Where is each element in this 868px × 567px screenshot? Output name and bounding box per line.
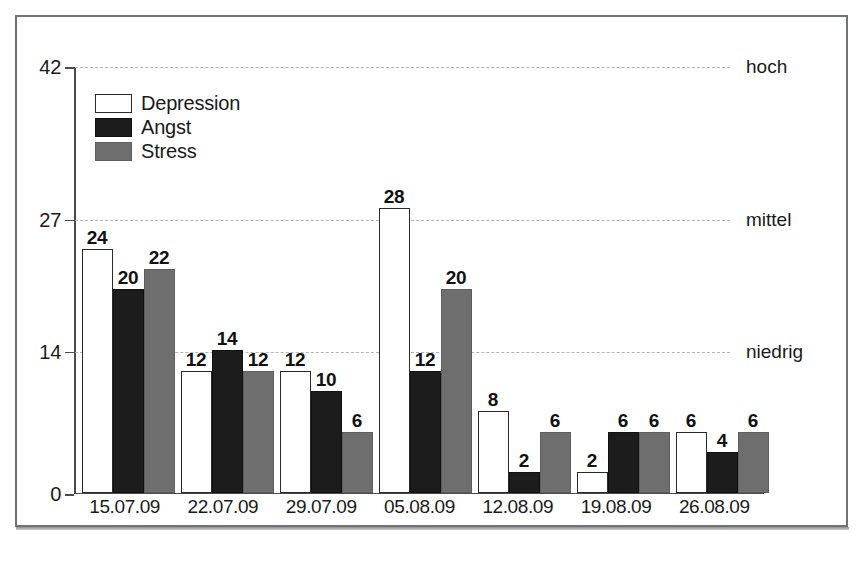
bar-depression-19.08.09[interactable]: 2 <box>577 472 608 492</box>
bar-depression-26.08.09[interactable]: 6 <box>676 432 707 493</box>
legend-swatch-angst <box>95 118 132 137</box>
bar-value-label: 2 <box>519 450 529 472</box>
bar-stress-19.08.09[interactable]: 6 <box>639 432 670 493</box>
bar-value-label: 14 <box>217 328 238 350</box>
bar-angst-29.07.09[interactable]: 10 <box>311 391 342 493</box>
bar-depression-12.08.09[interactable]: 8 <box>478 411 509 492</box>
bar-value-label: 6 <box>550 410 560 432</box>
bar-value-label: 12 <box>415 349 436 371</box>
bar-angst-12.08.09[interactable]: 2 <box>509 472 540 492</box>
bar-depression-22.07.09[interactable]: 12 <box>181 371 212 493</box>
bar-angst-22.07.09[interactable]: 14 <box>212 350 243 492</box>
bar-value-label: 12 <box>186 349 207 371</box>
y-tick-14 <box>65 352 74 354</box>
legend-item-angst[interactable]: Angst <box>95 116 240 139</box>
bar-value-label: 6 <box>686 410 696 432</box>
bar-value-label: 6 <box>748 410 758 432</box>
bar-group-19.08.09: 266 <box>571 68 670 493</box>
bar-angst-26.08.09[interactable]: 4 <box>707 452 738 493</box>
bar-stress-12.08.09[interactable]: 6 <box>540 432 571 493</box>
bar-stress-22.07.09[interactable]: 12 <box>243 371 274 493</box>
bar-angst-15.07.09[interactable]: 20 <box>113 289 144 492</box>
bar-value-label: 4 <box>717 430 727 452</box>
legend-label-angst: Angst <box>141 116 191 139</box>
chart-legend: DepressionAngstStress <box>95 92 240 163</box>
y-tick-0 <box>65 494 74 496</box>
bar-value-label: 8 <box>488 389 498 411</box>
x-label-19.08.09: 19.08.09 <box>567 496 665 518</box>
bar-group-12.08.09: 826 <box>472 68 571 493</box>
bar-value-label: 6 <box>352 410 362 432</box>
bar-stress-05.08.09[interactable]: 20 <box>441 289 472 492</box>
legend-label-depression: Depression <box>141 92 240 115</box>
bar-group-05.08.09: 281220 <box>373 68 472 493</box>
bar-value-label: 6 <box>618 410 628 432</box>
x-label-22.07.09: 22.07.09 <box>174 496 272 518</box>
bar-value-label: 6 <box>649 410 659 432</box>
y-tick-label-27: 27 <box>39 208 61 231</box>
x-label-26.08.09: 26.08.09 <box>665 496 763 518</box>
bar-group-26.08.09: 646 <box>670 68 769 493</box>
bar-value-label: 28 <box>384 186 405 208</box>
bar-value-label: 22 <box>149 247 170 269</box>
y-tick-27 <box>65 220 74 222</box>
x-label-15.07.09: 15.07.09 <box>76 496 174 518</box>
bar-depression-29.07.09[interactable]: 12 <box>280 371 311 493</box>
bar-value-label: 24 <box>87 227 108 249</box>
bar-stress-26.08.09[interactable]: 6 <box>738 432 769 493</box>
legend-item-depression[interactable]: Depression <box>95 92 240 115</box>
legend-swatch-stress <box>95 142 132 161</box>
bar-angst-05.08.09[interactable]: 12 <box>410 371 441 493</box>
bar-value-label: 2 <box>587 450 597 472</box>
bar-value-label: 20 <box>118 267 139 289</box>
legend-swatch-depression <box>95 94 132 113</box>
x-axis-line <box>74 493 764 495</box>
bar-value-label: 20 <box>446 267 467 289</box>
bar-depression-15.07.09[interactable]: 24 <box>82 249 113 493</box>
y-tick-42 <box>65 67 74 69</box>
bar-value-label: 10 <box>316 369 337 391</box>
bar-stress-15.07.09[interactable]: 22 <box>144 269 175 493</box>
y-tick-label-14: 14 <box>39 340 61 363</box>
bar-angst-19.08.09[interactable]: 6 <box>608 432 639 493</box>
bar-value-label: 12 <box>248 349 269 371</box>
bar-value-label: 12 <box>285 349 306 371</box>
y-tick-label-0: 0 <box>50 483 61 506</box>
chart-frame: 0142742 hochmittelniedrig 24202212141212… <box>15 15 848 527</box>
y-tick-label-42: 42 <box>39 56 61 79</box>
legend-label-stress: Stress <box>141 140 196 163</box>
x-axis-labels: 15.07.0922.07.0929.07.0905.08.0912.08.09… <box>76 496 764 518</box>
bar-stress-29.07.09[interactable]: 6 <box>342 432 373 493</box>
x-label-12.08.09: 12.08.09 <box>469 496 567 518</box>
x-label-29.07.09: 29.07.09 <box>272 496 370 518</box>
x-label-05.08.09: 05.08.09 <box>370 496 468 518</box>
bar-depression-05.08.09[interactable]: 28 <box>379 208 410 493</box>
legend-item-stress[interactable]: Stress <box>95 140 240 163</box>
bar-group-29.07.09: 12106 <box>274 68 373 493</box>
